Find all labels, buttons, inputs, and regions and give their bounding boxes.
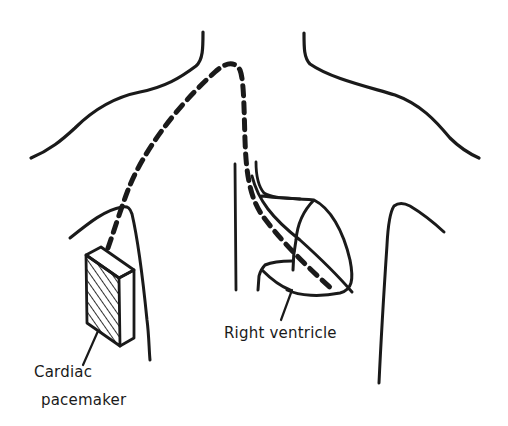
pacemaker-label-line1: Cardiac — [34, 365, 92, 380]
left-shoulder-outline — [31, 32, 203, 158]
right-shoulder-outline — [304, 33, 479, 158]
pacing-lead — [108, 64, 333, 290]
pacemaker-device-front — [86, 255, 120, 346]
ventricle-label: Right ventricle — [224, 326, 337, 341]
sternum-line-left — [235, 164, 236, 290]
ventricle-leader-line — [281, 290, 292, 320]
pacemaker-device-side — [119, 270, 134, 346]
pacemaker-label-line2: pacemaker — [41, 393, 126, 408]
sternum-line-right — [256, 162, 300, 199]
right-ventricle-curve — [258, 261, 292, 290]
pacemaker-leader-line — [83, 331, 98, 365]
right-torso-outline — [379, 204, 444, 383]
